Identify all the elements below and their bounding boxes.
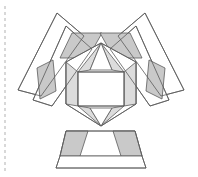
core-inner-box bbox=[78, 72, 124, 106]
bottom-pedestal bbox=[56, 131, 146, 168]
pedestal-lower-trapezoid bbox=[56, 156, 146, 168]
figure-canvas bbox=[0, 0, 198, 177]
geometric-figure bbox=[0, 0, 198, 177]
